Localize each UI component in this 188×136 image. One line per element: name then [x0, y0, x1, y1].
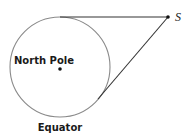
point-s-label: S — [175, 10, 181, 24]
equator-label: Equator — [38, 122, 83, 133]
diagram-svg: North Pole Equator S — [0, 0, 188, 136]
earth-circle — [10, 17, 110, 117]
tangent-line-bottom — [98, 17, 168, 99]
point-s — [166, 15, 170, 19]
diagram-canvas: North Pole Equator S — [0, 0, 188, 136]
north-pole-point — [58, 67, 62, 71]
north-pole-label: North Pole — [14, 55, 74, 66]
